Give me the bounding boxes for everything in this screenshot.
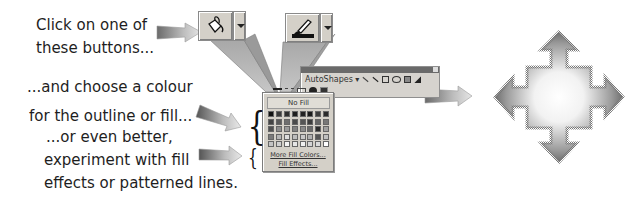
color-swatch[interactable] (284, 126, 290, 132)
color-swatch[interactable] (276, 119, 282, 125)
fill-color-dropdown[interactable] (233, 11, 246, 41)
color-swatch[interactable] (284, 111, 290, 117)
color-swatch[interactable] (284, 141, 290, 147)
rectangle-icon[interactable] (382, 76, 389, 83)
line-color-button[interactable] (285, 13, 320, 43)
toolbar-title-bar[interactable] (301, 67, 439, 73)
color-swatch[interactable] (315, 134, 321, 140)
textbox-icon[interactable] (404, 76, 411, 83)
close-icon[interactable] (433, 67, 438, 72)
color-swatch[interactable] (323, 141, 329, 147)
color-swatch[interactable] (276, 111, 282, 117)
oval-icon[interactable] (392, 76, 401, 83)
color-swatch[interactable] (268, 126, 274, 132)
line-icon[interactable] (363, 77, 369, 82)
zoom-funnel-left (210, 34, 278, 92)
four-way-arrow-icon (490, 30, 630, 165)
color-swatch[interactable] (315, 141, 321, 147)
arrow-to-palette-effects (199, 146, 242, 165)
toolbar-row-1: AutoShapes ▾ (305, 74, 421, 85)
color-swatch[interactable] (307, 119, 313, 125)
brace-colors: { (248, 105, 266, 145)
color-swatch[interactable] (268, 134, 274, 140)
color-swatch[interactable] (307, 134, 313, 140)
color-swatch[interactable] (292, 134, 298, 140)
color-swatch[interactable] (292, 141, 298, 147)
color-swatch[interactable] (276, 126, 282, 132)
color-swatch[interactable] (268, 119, 274, 125)
color-swatch[interactable] (323, 111, 329, 117)
color-swatch[interactable] (307, 141, 313, 147)
color-swatch[interactable] (307, 111, 313, 117)
chevron-down-icon (324, 26, 332, 30)
line-color-dropdown[interactable] (320, 13, 333, 43)
fill-color-palette: No Fill More Fill Colors... Fill Effects… (262, 92, 334, 172)
color-swatch[interactable] (292, 111, 298, 117)
color-swatch[interactable] (323, 126, 329, 132)
color-swatch[interactable] (307, 126, 313, 132)
paintbrush-icon (286, 14, 319, 42)
color-swatch[interactable] (300, 134, 306, 140)
color-swatch[interactable] (292, 126, 298, 132)
color-swatch[interactable] (276, 141, 282, 147)
brace-effects: { (248, 147, 258, 169)
color-swatch[interactable] (300, 111, 306, 117)
color-swatch[interactable] (292, 119, 298, 125)
color-swatch[interactable] (315, 126, 321, 132)
color-swatch[interactable] (300, 119, 306, 125)
color-swatch[interactable] (284, 119, 290, 125)
chevron-down-icon (237, 24, 245, 28)
color-swatch[interactable] (300, 141, 306, 147)
color-swatch-grid (268, 111, 329, 147)
no-fill-option[interactable]: No Fill (267, 97, 330, 109)
arrow-icon[interactable] (373, 77, 379, 82)
color-swatch[interactable] (276, 134, 282, 140)
color-swatch[interactable] (315, 119, 321, 125)
color-swatch[interactable] (300, 126, 306, 132)
autoshapes-menu[interactable]: AutoShapes ▾ (305, 75, 359, 84)
wordart-icon[interactable] (414, 76, 421, 83)
arrow-to-palette-colors (196, 105, 241, 131)
paint-bucket-icon (199, 12, 232, 40)
more-fill-colors-option[interactable]: More Fill Colors... (263, 151, 333, 159)
color-swatch[interactable] (315, 111, 321, 117)
color-swatch[interactable] (268, 141, 274, 147)
color-swatch[interactable] (284, 134, 290, 140)
color-swatch[interactable] (323, 134, 329, 140)
arrow-to-buttons (157, 23, 201, 42)
fill-effects-option[interactable]: Fill Effects... (263, 160, 333, 168)
color-swatch[interactable] (323, 119, 329, 125)
color-swatch[interactable] (268, 111, 274, 117)
fill-color-button[interactable] (198, 11, 233, 41)
